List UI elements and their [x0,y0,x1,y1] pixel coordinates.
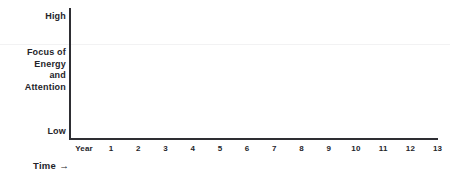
y-axis-tick-label-low: Low [47,126,66,136]
x-axis-title: Time → [33,160,69,171]
x-axis-line [69,138,438,140]
y-axis-title: Focus of Energy and Attention [25,47,66,93]
y-axis-title-line: Energy [25,59,66,71]
x-axis-tick-label: 1 [109,144,114,153]
y-axis-title-line: Attention [25,82,66,94]
x-axis-tick-label: 5 [218,144,223,153]
x-axis-tick-label: 6 [245,144,250,153]
y-axis-tick-label-high: High [45,11,66,21]
x-axis-tick-label: 10 [351,144,360,153]
x-axis-tick-label: 11 [379,144,388,153]
x-axis-tick-label: 13 [433,144,442,153]
x-axis-tick-labels: Year12345678910111213 [69,144,438,156]
x-axis-tick-label: 8 [299,144,304,153]
y-axis-line [69,8,71,140]
scan-artifact-line [0,44,450,45]
x-axis-tick-label: 4 [190,144,195,153]
x-axis-tick-label: 9 [326,144,331,153]
y-axis-title-line: Focus of [25,47,66,59]
y-axis-title-line: and [25,70,66,82]
x-axis-tick-label: 7 [272,144,277,153]
x-axis-tick-label: 12 [406,144,415,153]
chart-figure: High Low Focus of Energy and Attention Y… [0,0,450,179]
x-axis-tick-label: 3 [163,144,168,153]
x-axis-tick-label: 2 [136,144,141,153]
x-axis-tick-label: Year [75,144,93,153]
